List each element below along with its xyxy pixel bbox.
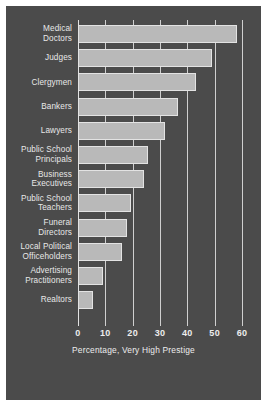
chart-figure: 0102030405060MedicalDoctorsJudgesClergym… (6, 6, 261, 400)
bar (78, 267, 103, 285)
bar-row: Public SchoolTeachers (6, 191, 261, 215)
bar (78, 122, 165, 140)
category-label-line: Teachers (38, 203, 72, 213)
x-tick-label-30: 30 (149, 328, 171, 338)
category-label: AdvertisingPractitioners (6, 264, 72, 288)
bar-row: Bankers (6, 95, 261, 119)
category-label-line: Practitioners (25, 276, 72, 286)
x-tick-label-60: 60 (231, 328, 253, 338)
category-label: Realtors (6, 288, 72, 312)
category-label: Public SchoolTeachers (6, 191, 72, 215)
category-label: Bankers (6, 95, 72, 119)
category-label-line: Public School (21, 145, 72, 155)
bar-row: Judges (6, 46, 261, 70)
bar-row: AdvertisingPractitioners (6, 264, 261, 288)
category-label-line: Funeral (44, 218, 72, 228)
bar (78, 25, 237, 43)
category-label-line: Principals (36, 155, 73, 165)
category-label-line: Directors (38, 228, 72, 238)
category-label: Clergymen (6, 70, 72, 94)
category-label: MedicalDoctors (6, 22, 72, 46)
bar-row: Local PoliticalOfficeholders (6, 240, 261, 264)
bar-row: Realtors (6, 288, 261, 312)
category-label-line: Realtors (41, 295, 72, 305)
bar (78, 49, 212, 67)
category-label: Local PoliticalOfficeholders (6, 240, 72, 264)
category-label: Lawyers (6, 119, 72, 143)
category-label: Public SchoolPrincipals (6, 143, 72, 167)
x-tick-label-20: 20 (122, 328, 144, 338)
bar-row: FuneralDirectors (6, 216, 261, 240)
bar (78, 219, 127, 237)
category-label-line: Judges (45, 53, 72, 63)
category-label-line: Public School (21, 194, 72, 204)
category-label-line: Clergymen (32, 78, 73, 88)
x-axis-title: Percentage, Very High Prestige (6, 345, 261, 355)
bar (78, 194, 131, 212)
bar (78, 291, 93, 309)
bar (78, 146, 148, 164)
plot-area: 0102030405060MedicalDoctorsJudgesClergym… (6, 6, 261, 400)
bar-row: Lawyers (6, 119, 261, 143)
bar (78, 73, 196, 91)
bar-row: MedicalDoctors (6, 22, 261, 46)
category-label-line: Officeholders (23, 252, 72, 262)
x-tick-label-10: 10 (94, 328, 116, 338)
category-label-line: Doctors (43, 34, 72, 44)
category-label: FuneralDirectors (6, 216, 72, 240)
category-label-line: Business (38, 170, 72, 180)
bar (78, 98, 178, 116)
category-label-line: Local Political (20, 242, 72, 252)
bar (78, 243, 122, 261)
x-tick-label-0: 0 (67, 328, 89, 338)
category-label: Judges (6, 46, 72, 70)
bar (78, 170, 144, 188)
bar-row: BusinessExecutives (6, 167, 261, 191)
category-label-line: Lawyers (41, 126, 72, 136)
x-tick-label-50: 50 (204, 328, 226, 338)
bar-row: Public SchoolPrincipals (6, 143, 261, 167)
category-label-line: Advertising (30, 266, 72, 276)
bar-row: Clergymen (6, 70, 261, 94)
category-label-line: Medical (43, 24, 72, 34)
category-label-line: Bankers (41, 102, 72, 112)
x-tick-label-40: 40 (176, 328, 198, 338)
category-label: BusinessExecutives (6, 167, 72, 191)
category-label-line: Executives (31, 179, 72, 189)
